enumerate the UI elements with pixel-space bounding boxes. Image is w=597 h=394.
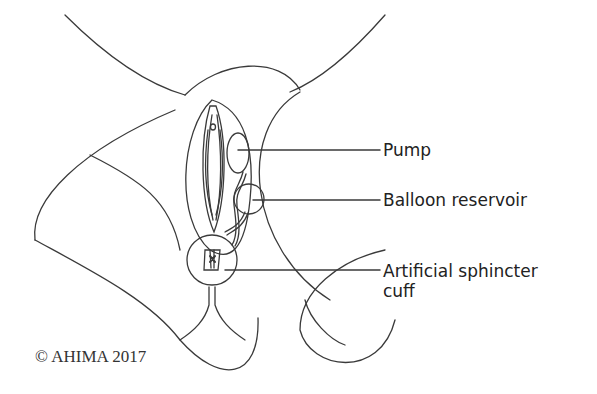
- copyright-notice: © AHIMA 2017: [35, 347, 146, 367]
- label-cuff-line1: Artificial sphincter: [383, 261, 538, 281]
- label-cuff-line2: cuff: [383, 281, 415, 301]
- diagram-figure: Pump Balloon reservoir Artificial sphinc…: [0, 0, 597, 394]
- label-balloon-reservoir: Balloon reservoir: [383, 190, 527, 210]
- label-pump: Pump: [383, 140, 431, 160]
